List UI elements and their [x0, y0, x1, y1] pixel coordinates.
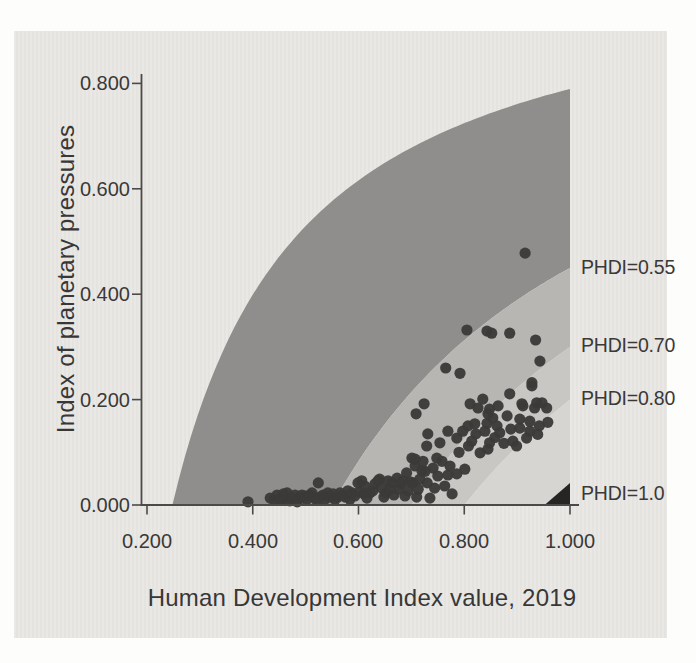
country-dot — [511, 440, 522, 451]
y-axis-title: Index of planetary pressures — [51, 64, 81, 494]
iso-label-phdi-10: PHDI=1.0 — [581, 481, 691, 505]
country-dot — [429, 483, 440, 494]
iso-label-phdi-070: PHDI=0.70 — [581, 333, 691, 357]
country-dot — [504, 328, 515, 339]
country-dot — [431, 453, 442, 464]
country-dot — [413, 484, 424, 495]
country-dot — [541, 402, 552, 413]
country-dot — [494, 427, 505, 438]
x-tick-label: 0.800 — [419, 529, 509, 553]
x-tick-label: 0.600 — [313, 529, 403, 553]
country-dot — [486, 328, 497, 339]
country-dot — [442, 426, 453, 437]
y-tick-label: 0.000 — [58, 493, 130, 517]
x-tick-label: 0.400 — [208, 529, 298, 553]
country-dot — [530, 334, 541, 345]
x-axis-title: Human Development Index value, 2019 — [112, 584, 612, 612]
country-dot — [493, 400, 504, 411]
x-tick-label: 1.000 — [525, 529, 615, 553]
country-dot — [526, 377, 537, 388]
country-dot — [422, 428, 433, 439]
country-dot — [419, 398, 430, 409]
country-dot — [461, 324, 472, 335]
country-dot — [453, 447, 464, 458]
country-dot — [524, 416, 535, 427]
country-dot — [411, 408, 422, 419]
country-dot — [447, 488, 458, 499]
figure-page: 0.800 0.600 0.400 0.200 0.000 0.200 0.40… — [0, 0, 696, 663]
country-dot — [514, 414, 525, 425]
country-dot — [520, 248, 531, 259]
country-dot — [477, 394, 488, 405]
country-dot — [313, 477, 324, 488]
country-dot — [542, 417, 553, 428]
country-dot — [424, 493, 435, 504]
country-dot — [432, 470, 443, 481]
country-dot — [517, 400, 528, 411]
x-tick-label: 0.200 — [102, 529, 192, 553]
country-dot — [440, 362, 451, 373]
country-dot — [469, 418, 480, 429]
country-dot — [502, 410, 513, 421]
iso-label-phdi-055: PHDI=0.55 — [581, 255, 691, 279]
country-dot — [504, 388, 515, 399]
country-dot — [434, 437, 445, 448]
country-dot — [454, 368, 465, 379]
country-dot — [459, 464, 470, 475]
iso-label-phdi-080: PHDI=0.80 — [581, 386, 691, 410]
country-dot — [417, 456, 428, 467]
phdi-scatter-chart — [0, 0, 696, 663]
country-dot — [421, 440, 432, 451]
country-dot — [534, 356, 545, 367]
